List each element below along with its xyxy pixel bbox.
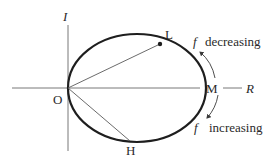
- f-decreasing-symbol: f: [193, 34, 199, 49]
- point-L-dot: [158, 42, 162, 46]
- ellipse-diagram: I O L M H R f decreasing f increasing: [0, 0, 269, 158]
- f-decreasing-text: decreasing: [205, 34, 261, 49]
- vertical-axis-label: I: [62, 9, 68, 24]
- point-H-label: H: [126, 143, 135, 158]
- f-increasing-symbol: f: [194, 120, 200, 135]
- horizontal-axis-label: R: [245, 81, 254, 96]
- point-L-label: L: [165, 27, 173, 42]
- chord-O-L: [68, 44, 160, 88]
- arrow-f-decreasing: [200, 52, 215, 78]
- f-increasing-text: increasing: [209, 120, 263, 135]
- point-M-label: M: [206, 81, 218, 96]
- arrow-f-increasing: [207, 95, 218, 118]
- origin-label: O: [53, 92, 62, 107]
